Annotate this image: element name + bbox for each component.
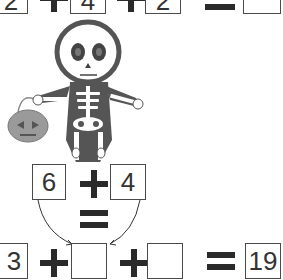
hint-left: 6 bbox=[42, 167, 56, 198]
hint-right: 4 bbox=[121, 167, 135, 198]
bottom-result: 19 bbox=[249, 246, 278, 277]
plus-sign bbox=[120, 249, 148, 277]
bottom-blank-1-box[interactable] bbox=[71, 243, 107, 279]
bottom-blank-2-box[interactable] bbox=[147, 243, 183, 279]
skeleton-illustration bbox=[0, 0, 283, 280]
equals-sign bbox=[207, 252, 235, 270]
equals-sign bbox=[80, 210, 108, 228]
plus-sign bbox=[80, 170, 108, 198]
pumpkin-icon bbox=[8, 110, 48, 142]
bottom-addend-1-box: 3 bbox=[0, 243, 28, 279]
hint-right-box: 4 bbox=[110, 164, 146, 200]
bottom-result-box: 19 bbox=[245, 243, 281, 279]
plus-sign bbox=[40, 249, 68, 277]
bottom-addend-1: 3 bbox=[7, 246, 21, 277]
hint-left-box: 6 bbox=[32, 164, 66, 200]
